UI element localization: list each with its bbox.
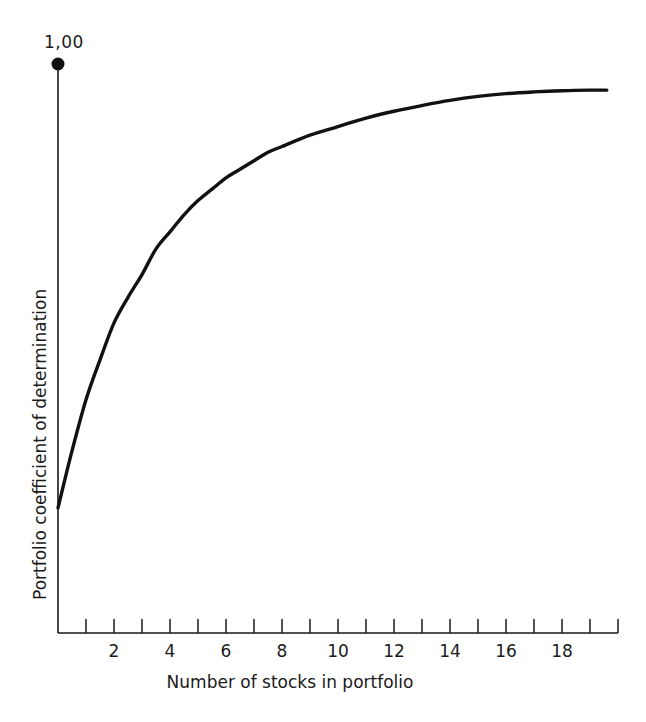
- x-axis-tick-label: 12: [383, 641, 405, 661]
- y-axis-title: Portfolio coefficient of determination: [30, 289, 50, 600]
- x-axis-title: Number of stocks in portfolio: [167, 672, 414, 692]
- x-axis-tick-label: 18: [551, 641, 573, 661]
- x-axis-tick-label: 14: [439, 641, 461, 661]
- x-axis-tick-label: 16: [495, 641, 517, 661]
- y-axis-top-value-label: 1,00: [44, 32, 84, 52]
- chart-figure: 1,00 24681012141618 Number of stocks in …: [0, 0, 646, 722]
- plot-area: [0, 0, 646, 722]
- x-axis-tick-label: 10: [327, 641, 349, 661]
- x-axis-tick-label: 8: [277, 641, 288, 661]
- data-curve-diversification: [58, 90, 607, 508]
- x-axis-ticks: [86, 619, 618, 633]
- y-axis-top-dot-marker: [52, 58, 65, 71]
- x-axis-tick-label: 6: [221, 641, 232, 661]
- x-axis-tick-label: 2: [109, 641, 120, 661]
- x-axis-tick-label: 4: [165, 641, 176, 661]
